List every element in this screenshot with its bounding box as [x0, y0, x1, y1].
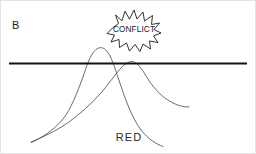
figure-panel-b: CONFLICT B RED	[0, 0, 256, 154]
x-axis-label: RED	[1, 132, 256, 143]
panel-letter-label: B	[12, 20, 20, 31]
distribution-curve-2	[31, 62, 189, 142]
conflict-label: CONFLICT	[113, 25, 155, 34]
